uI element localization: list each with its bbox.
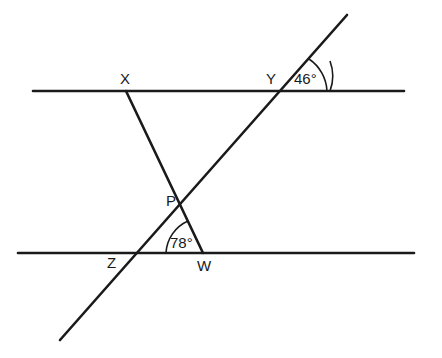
angle-arc-y bbox=[330, 61, 333, 91]
label-w: W bbox=[197, 257, 212, 274]
segment-xw bbox=[126, 91, 203, 253]
label-p: P bbox=[166, 192, 176, 209]
label-y: Y bbox=[266, 70, 276, 87]
angle-label-y: 46° bbox=[294, 70, 317, 87]
transversal-line bbox=[60, 15, 347, 340]
label-x: X bbox=[120, 70, 130, 87]
geometry-diagram: X Y P Z W 46° 78° bbox=[0, 0, 442, 358]
angle-label-w: 78° bbox=[170, 234, 193, 251]
label-z: Z bbox=[107, 254, 116, 271]
